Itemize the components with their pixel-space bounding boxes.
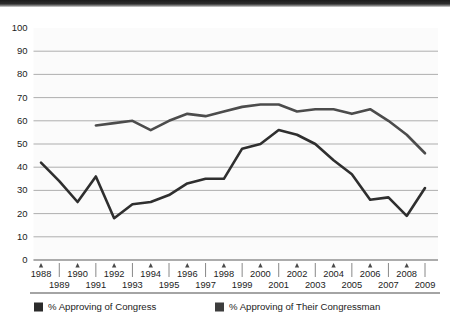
y-tick-label: 20 bbox=[17, 208, 28, 219]
y-tick-label: 10 bbox=[17, 231, 28, 242]
x-tick-label: 2009 bbox=[415, 280, 436, 290]
y-tick-label: 30 bbox=[17, 184, 28, 195]
x-tick-label: 1996 bbox=[177, 269, 198, 279]
x-tick-label: 1991 bbox=[86, 280, 107, 290]
chart-legend: % Approving of Congress% Approving of Th… bbox=[34, 301, 380, 312]
x-tick-marker bbox=[185, 263, 189, 268]
x-tick-marker bbox=[112, 263, 116, 268]
x-tick-label: 1993 bbox=[122, 280, 143, 290]
approval-rating-line-chart: 1009080706050403020100198819891990199119… bbox=[0, 0, 450, 327]
x-tick-label: 2003 bbox=[305, 280, 326, 290]
legend-label: % Approving of Congress bbox=[48, 301, 156, 312]
x-tick-label: 2000 bbox=[250, 269, 271, 279]
y-tick-label: 80 bbox=[17, 68, 28, 79]
x-tick-label: 2001 bbox=[268, 280, 289, 290]
x-tick-label: 1994 bbox=[140, 269, 161, 279]
x-tick-marker bbox=[39, 263, 43, 268]
x-tick-marker bbox=[222, 263, 226, 268]
x-tick-label: 1988 bbox=[31, 269, 52, 279]
x-tick-label: 2008 bbox=[396, 269, 417, 279]
x-tick-marker bbox=[368, 263, 372, 268]
x-tick-label: 2002 bbox=[287, 269, 308, 279]
x-tick-label: 1989 bbox=[49, 280, 70, 290]
x-tick-label: 1999 bbox=[232, 280, 253, 290]
x-tick-marker bbox=[149, 263, 153, 268]
x-tick-marker bbox=[295, 263, 299, 268]
x-tick-label: 2006 bbox=[360, 269, 381, 279]
legend-swatch bbox=[34, 303, 43, 312]
x-tick-label: 1992 bbox=[104, 269, 125, 279]
x-tick-label: 2004 bbox=[323, 269, 344, 279]
x-tick-marker bbox=[258, 263, 262, 268]
x-tick-label: 2005 bbox=[342, 280, 363, 290]
legend-swatch bbox=[215, 303, 224, 312]
x-axis-tick-labels: 1988198919901991199219931994199519961997… bbox=[31, 269, 436, 290]
x-tick-label: 1998 bbox=[214, 269, 235, 279]
x-tick-label: 2007 bbox=[378, 280, 399, 290]
chart-figure: 1009080706050403020100198819891990199119… bbox=[0, 0, 450, 327]
legend-label: % Approving of Their Congressman bbox=[229, 301, 380, 312]
y-tick-label: 60 bbox=[17, 115, 28, 126]
y-tick-label: 100 bbox=[12, 22, 28, 33]
x-tick-label: 1997 bbox=[195, 280, 216, 290]
y-tick-label: 90 bbox=[17, 45, 28, 56]
x-tick-marker bbox=[75, 263, 79, 268]
x-tick-marker bbox=[331, 263, 335, 268]
y-tick-label: 50 bbox=[17, 138, 28, 149]
y-tick-label: 0 bbox=[22, 254, 27, 265]
y-axis-tick-labels: 1009080706050403020100 bbox=[12, 22, 28, 265]
y-tick-label: 70 bbox=[17, 92, 28, 103]
x-tick-label: 1995 bbox=[159, 280, 180, 290]
x-tick-label: 1990 bbox=[67, 269, 88, 279]
x-tick-marker bbox=[405, 263, 409, 268]
y-tick-label: 40 bbox=[17, 161, 28, 172]
